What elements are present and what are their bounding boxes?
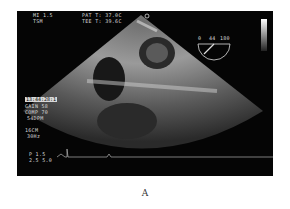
timestamp: 13:44:28:1 [25, 97, 57, 102]
frequency-scale: 2.5 5.0 [29, 158, 52, 163]
echo-sector [17, 11, 273, 176]
angle-value: 44 [209, 36, 216, 41]
ultrasound-frame: MI 1.5 TSM PAT T: 37.0C TEE T: 39.6C 13:… [17, 11, 273, 176]
tee-temp: TEE T: 39.6C [82, 19, 122, 24]
tis-label: TSM [33, 19, 43, 24]
angle-min: 0 [198, 36, 201, 41]
figure-caption: A [0, 188, 290, 198]
rate-value: 54DPM [27, 116, 44, 121]
frame-rate: 30Hz [27, 134, 40, 139]
grayscale-bar [261, 19, 267, 51]
angle-max: 180 [220, 36, 230, 41]
